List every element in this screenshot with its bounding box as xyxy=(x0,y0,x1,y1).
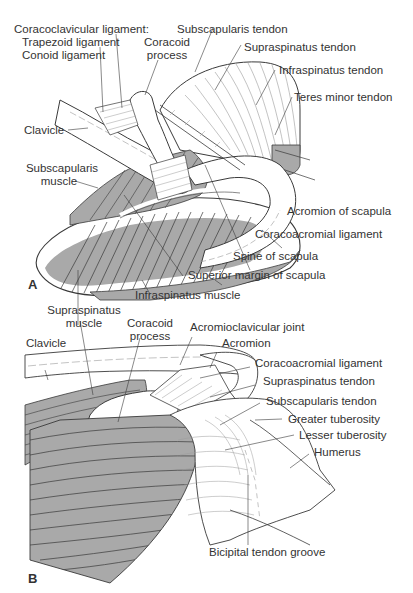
label-coracoid-a-line1: Coracoid xyxy=(142,36,192,49)
label-spine-of-scapula: Spine of scapula xyxy=(233,250,318,263)
label-acromioclavicular-joint: Acromioclavicular joint xyxy=(190,321,304,334)
label-subscapularis-tendon-b: Subscapularis tendon xyxy=(266,395,377,408)
label-humerus: Humerus xyxy=(314,446,361,459)
label-supraspinatus-tendon-b: Supraspinatus tendon xyxy=(263,375,375,388)
label-coracoacromial-ligament-a: Coracoacromial ligament xyxy=(255,228,382,241)
panel-letter-b: B xyxy=(28,571,37,586)
label-coracoid-b-line1: Coracoid xyxy=(124,317,176,330)
label-coracoid-b-line2: process xyxy=(124,330,176,343)
label-clavicle-a: Clavicle xyxy=(24,124,64,137)
label-teres-minor-tendon: Teres minor tendon xyxy=(294,91,392,104)
label-infraspinatus-muscle: Infraspinatus muscle xyxy=(135,289,240,302)
label-supraspinatus-tendon-a: Supraspinatus tendon xyxy=(244,41,356,54)
label-conoid-ligament: Conoid ligament xyxy=(22,49,105,62)
label-acromion-of-scapula: Acromion of scapula xyxy=(287,205,391,218)
label-lesser-tuberosity: Lesser tuberosity xyxy=(299,429,387,442)
label-subscapularis-tendon-a: Subscapularis tendon xyxy=(177,23,288,36)
label-supraspinatus-muscle-line1: Supraspinatus xyxy=(40,304,128,317)
label-bicipital-tendon-groove: Bicipital tendon groove xyxy=(209,546,325,559)
label-infraspinatus-tendon: Infraspinatus tendon xyxy=(279,64,383,77)
label-coracoclavicular-ligament: Coracoclavicular ligament: xyxy=(14,23,149,36)
label-coracoacromial-ligament-b: Coracoacromial ligament xyxy=(255,357,382,370)
label-subscapularis-muscle-line2: muscle xyxy=(28,175,90,188)
label-superior-margin-of-scapula: Superior margin of scapula xyxy=(188,269,325,282)
label-acromion-b: Acromion xyxy=(222,337,271,350)
label-clavicle-b: Clavicle xyxy=(26,337,66,350)
label-subscapularis-muscle-line1: Subscapularis xyxy=(18,162,106,175)
label-greater-tuberosity: Greater tuberosity xyxy=(288,413,380,426)
label-coracoid-a-line2: process xyxy=(142,49,192,62)
label-trapezoid-ligament: Trapezoid ligament xyxy=(22,36,119,49)
panel-letter-a: A xyxy=(28,277,37,292)
label-supraspinatus-muscle-line2: muscle xyxy=(52,317,116,330)
